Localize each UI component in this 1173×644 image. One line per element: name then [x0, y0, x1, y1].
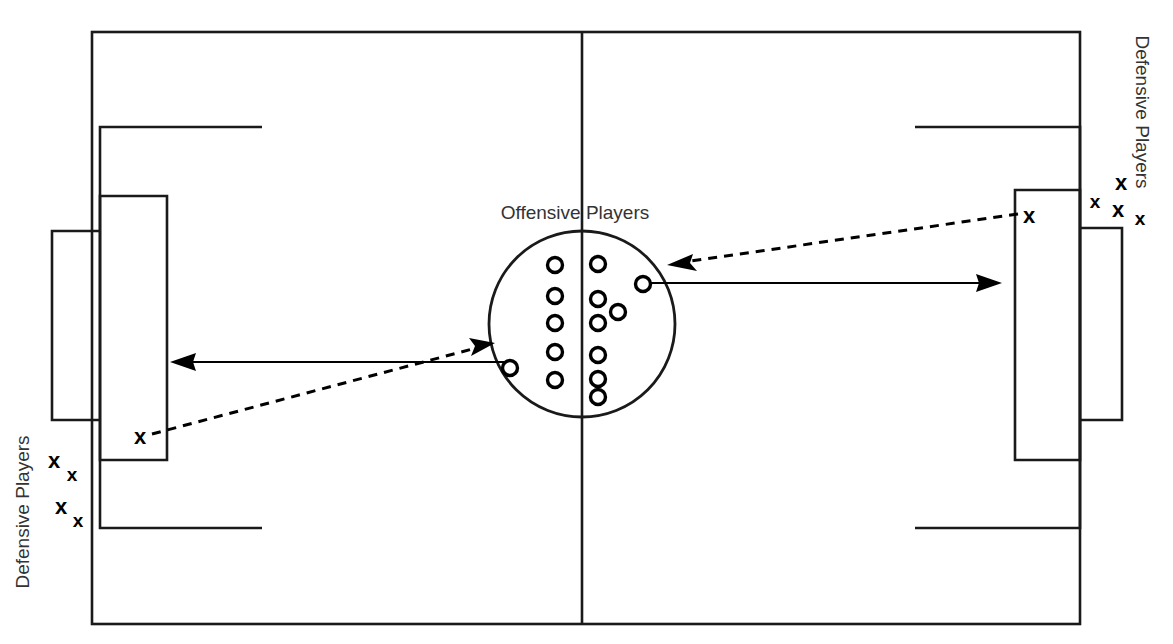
- offensive-mark: [503, 361, 518, 376]
- offensive-mark: [591, 257, 606, 272]
- offensive-players-label: Offensive Players: [501, 202, 650, 223]
- defensive-mark: x: [1112, 197, 1125, 222]
- offensive-mark: [548, 345, 563, 360]
- defensive-players-right-group: x x x x x: [1023, 170, 1146, 229]
- defensive-mark: x: [134, 424, 147, 449]
- offensive-mark: [591, 292, 606, 307]
- offensive-mark: [548, 258, 563, 273]
- left-goal-area: [100, 196, 167, 460]
- defensive-mark: x: [1135, 208, 1146, 229]
- field-diagram: x x x x x x x x x x Offensive Players De…: [0, 0, 1173, 644]
- arrow-right-solid: [650, 274, 1002, 292]
- defensive-mark: x: [55, 494, 68, 519]
- defensive-players-label-right: Defensive Players: [1132, 35, 1153, 188]
- offensive-mark: [611, 305, 626, 320]
- defensive-mark: x: [1023, 203, 1036, 228]
- defensive-mark: x: [1115, 170, 1128, 195]
- arrow-right-dashed: [667, 214, 1018, 271]
- offensive-mark: [591, 390, 606, 405]
- offensive-mark: [548, 316, 563, 331]
- field-outline: [92, 32, 1080, 624]
- defensive-players-label-left: Defensive Players: [12, 435, 33, 588]
- offensive-players-group: [503, 257, 651, 405]
- offensive-mark: [636, 277, 651, 292]
- offensive-mark: [591, 372, 606, 387]
- defensive-mark: x: [67, 464, 78, 485]
- arrow-left-solid: [170, 353, 505, 371]
- right-goal: [1080, 228, 1122, 420]
- offensive-mark: [548, 289, 563, 304]
- right-penalty-area: [915, 127, 1080, 528]
- left-penalty-area: [100, 127, 262, 528]
- offensive-mark: [591, 348, 606, 363]
- right-goal-area: [1015, 190, 1080, 460]
- arrow-left-dashed: [152, 338, 495, 434]
- offensive-mark: [548, 373, 563, 388]
- defensive-mark: x: [48, 448, 61, 473]
- defensive-mark: x: [1090, 191, 1101, 212]
- defensive-mark: x: [73, 510, 84, 531]
- offensive-mark: [591, 316, 606, 331]
- defensive-players-left-group: x x x x x: [48, 424, 147, 531]
